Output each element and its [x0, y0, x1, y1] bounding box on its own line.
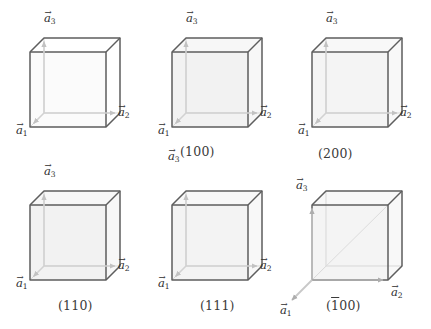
vector-label-a1-cell-1bar00: →a1: [280, 303, 292, 318]
caption-rest: 00): [339, 298, 360, 313]
vector-subscript: 3: [51, 170, 56, 179]
vector-label-a3-cell-200-b: →a3: [326, 11, 338, 26]
vector-arrow-accent: →: [17, 273, 24, 282]
caption-cell-200: (200): [318, 146, 353, 161]
vector-subscript: 2: [267, 111, 272, 120]
vector-subscript: 1: [23, 129, 28, 138]
caption-cell-1bar00: (100): [326, 298, 361, 313]
vector-arrow-accent: →: [401, 102, 408, 111]
vector-label-a2-cell-200-a: →a2: [260, 105, 272, 120]
unit-cell-200-a: [172, 38, 262, 127]
vector-arrow-accent: →: [187, 8, 194, 17]
vector-subscript: 1: [165, 129, 170, 138]
vector-arrow-accent: →: [261, 255, 268, 264]
vector-subscript: 2: [125, 264, 130, 273]
miller-index-cube-figure: [0, 0, 431, 329]
vector-subscript: 3: [193, 17, 198, 26]
vector-subscript: 2: [407, 111, 412, 120]
vector-label-a2-cell-200-b: →a2: [400, 105, 412, 120]
vector-arrow-accent: →: [281, 300, 288, 309]
unit-cell-100: [30, 38, 120, 127]
vector-arrow-accent: →: [261, 102, 268, 111]
vector-subscript: 1: [287, 309, 292, 318]
unit-cell-110: [30, 191, 120, 280]
plane-1bar00-side: [388, 191, 402, 280]
vector-arrow-accent: →: [297, 175, 304, 184]
vector-arrow-accent: →: [299, 120, 306, 129]
vector-label-a3-cell-200-a: →a3: [186, 11, 198, 26]
vector-label-a2-cell-1bar00: →a2: [391, 285, 403, 300]
axis-a1-arrow: [292, 280, 312, 300]
caption-bar-index: 1: [331, 298, 339, 313]
vector-arrow-accent: →: [119, 255, 126, 264]
vector-arrow-accent: →: [159, 273, 166, 282]
unit-cell-111: [172, 191, 262, 280]
vector-label-a3-cell-100: →a3: [44, 11, 56, 26]
vector-label-a3-cell-110: →a3: [44, 164, 56, 179]
vector-arrow-accent: →: [45, 8, 52, 17]
caption-cell-111: (111): [200, 298, 235, 313]
vector-subscript: 2: [125, 111, 130, 120]
vector-subscript: 1: [165, 282, 170, 291]
caption-cell-100: (100): [180, 144, 215, 159]
vector-label-a1-cell-100: →a1: [16, 123, 28, 138]
unit-cell-200-b: [312, 38, 402, 127]
vector-arrow-accent: →: [159, 120, 166, 129]
vector-label-a1-cell-200-b: →a1: [298, 123, 310, 138]
caption-cell-110: (110): [58, 298, 93, 313]
vector-subscript: 1: [23, 282, 28, 291]
vector-arrow-accent: →: [45, 161, 52, 170]
vector-label-a2-cell-110: →a2: [118, 258, 130, 273]
vector-label-a1-cell-200-a: →a1: [158, 123, 170, 138]
unit-cell-1bar00: [292, 191, 402, 300]
vector-subscript: 2: [398, 291, 403, 300]
vector-subscript: 3: [333, 17, 338, 26]
vector-subscript: 1: [305, 129, 310, 138]
vector-arrow-accent: →: [119, 102, 126, 111]
vector-subscript: 3: [303, 184, 308, 193]
vector-subscript: 2: [267, 264, 272, 273]
vector-arrow-accent: →: [169, 146, 176, 155]
vector-label-a2-cell-111: →a2: [260, 258, 272, 273]
vector-label-a3-cell-1bar00: →a3: [296, 178, 308, 193]
vector-label-a2-cell-100: →a2: [118, 105, 130, 120]
vector-label-a3-cell-111: →a3: [168, 149, 180, 164]
vector-arrow-accent: →: [392, 282, 399, 291]
vector-subscript: 3: [175, 155, 180, 164]
vector-subscript: 3: [51, 17, 56, 26]
vector-arrow-accent: →: [17, 120, 24, 129]
vector-label-a1-cell-111: →a1: [158, 276, 170, 291]
vector-label-a1-cell-110: →a1: [16, 276, 28, 291]
vector-arrow-accent: →: [327, 8, 334, 17]
